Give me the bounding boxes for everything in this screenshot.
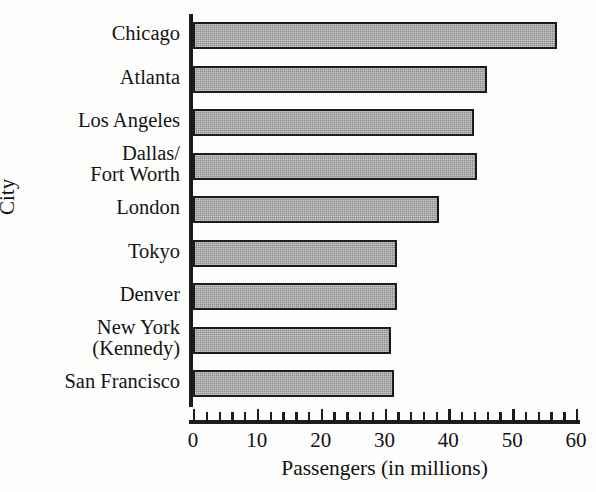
x-tick-minor bbox=[282, 412, 284, 423]
x-axis-title: Passengers (in millions) bbox=[189, 456, 580, 481]
x-tick-minor bbox=[410, 412, 412, 423]
x-tick-minor bbox=[372, 412, 374, 423]
category-label: London bbox=[116, 197, 180, 218]
x-tick-minor bbox=[244, 412, 246, 423]
x-tick-minor bbox=[525, 412, 527, 423]
x-tick-major bbox=[385, 409, 387, 423]
x-tick-minor bbox=[550, 412, 552, 423]
bar bbox=[193, 370, 394, 397]
category-label: Chicago bbox=[112, 23, 180, 44]
x-tick-minor bbox=[436, 412, 438, 423]
x-tick-minor bbox=[270, 412, 272, 423]
x-tick-minor bbox=[499, 412, 501, 423]
bar bbox=[193, 196, 439, 223]
x-tick-minor bbox=[397, 412, 399, 423]
category-label: Tokyo bbox=[128, 241, 180, 262]
category-axis-labels: ChicagoAtlantaLos AngelesDallas/ Fort Wo… bbox=[0, 14, 186, 406]
x-tick-label: 40 bbox=[438, 428, 459, 453]
x-tick-major bbox=[448, 409, 450, 423]
x-tick-minor bbox=[308, 412, 310, 423]
x-tick-minor bbox=[333, 412, 335, 423]
category-label: Los Angeles bbox=[78, 110, 180, 131]
x-tick-major bbox=[193, 409, 195, 423]
x-tick-label: 20 bbox=[310, 428, 331, 453]
x-tick-minor bbox=[346, 412, 348, 423]
x-tick-label: 30 bbox=[374, 428, 395, 453]
category-label: San Francisco bbox=[64, 371, 180, 392]
x-tick-label: 60 bbox=[566, 428, 587, 453]
x-axis: Passengers (in millions) 0102030405060 bbox=[189, 406, 580, 492]
bar bbox=[193, 327, 391, 354]
x-tick-minor bbox=[231, 412, 233, 423]
bar bbox=[193, 109, 474, 136]
plot-area bbox=[193, 14, 576, 406]
x-tick-major bbox=[321, 409, 323, 423]
x-tick-minor bbox=[461, 412, 463, 423]
x-tick-minor bbox=[206, 412, 208, 423]
category-label: Atlanta bbox=[120, 67, 180, 88]
bar bbox=[193, 22, 557, 49]
bar bbox=[193, 66, 487, 93]
x-tick-minor bbox=[538, 412, 540, 423]
x-tick-minor bbox=[487, 412, 489, 423]
x-tick-major bbox=[576, 409, 578, 423]
x-tick-minor bbox=[474, 412, 476, 423]
x-tick-minor bbox=[219, 412, 221, 423]
x-tick-label: 0 bbox=[188, 428, 199, 453]
x-tick-minor bbox=[359, 412, 361, 423]
bar bbox=[193, 153, 477, 180]
category-label: Dallas/ Fort Worth bbox=[90, 143, 180, 185]
bar bbox=[193, 283, 397, 310]
x-tick-label: 50 bbox=[502, 428, 523, 453]
x-tick-major bbox=[257, 409, 259, 423]
x-tick-label: 10 bbox=[246, 428, 267, 453]
x-tick-major bbox=[512, 409, 514, 423]
bar-chart: City ChicagoAtlantaLos AngelesDallas/ Fo… bbox=[0, 0, 596, 492]
x-tick-minor bbox=[295, 412, 297, 423]
x-tick-minor bbox=[563, 412, 565, 423]
category-label: Denver bbox=[120, 284, 180, 305]
category-label: New York (Kennedy) bbox=[92, 317, 180, 359]
bar bbox=[193, 240, 397, 267]
x-tick-minor bbox=[423, 412, 425, 423]
